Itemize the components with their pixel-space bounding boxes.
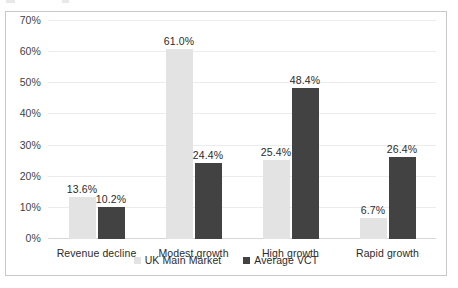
- bar-value-label: 24.4%: [193, 149, 223, 161]
- bar[interactable]: 25.4%: [263, 160, 290, 239]
- y-axis-tick-label: 30%: [20, 139, 41, 151]
- bar-value-label: 61.0%: [164, 35, 194, 47]
- top-crop-artifact-right: [62, 0, 69, 3]
- bar[interactable]: 24.4%: [195, 163, 222, 239]
- top-crop-artifact-left: [6, 0, 15, 3]
- bar[interactable]: 61.0%: [166, 49, 193, 239]
- bar[interactable]: 6.7%: [360, 218, 387, 239]
- bar-group: 25.4%48.4%High growth: [263, 21, 319, 239]
- legend-item[interactable]: Average VCT: [243, 254, 318, 266]
- bar-value-label: 6.7%: [361, 204, 385, 216]
- legend-swatch-icon: [243, 257, 250, 264]
- chart-container: 70%60%50%40%30%20%10%0%13.6%10.2%Revenue…: [5, 11, 447, 276]
- legend-label: Average VCT: [254, 254, 318, 266]
- legend-label: UK Main Market: [145, 254, 222, 266]
- y-axis-tick-label: 70%: [20, 14, 41, 26]
- plot-area: 70%60%50%40%30%20%10%0%13.6%10.2%Revenue…: [48, 21, 436, 239]
- bar-value-label: 25.4%: [261, 146, 291, 158]
- bar-group: 13.6%10.2%Revenue decline: [69, 21, 125, 239]
- chart-legend: UK Main MarketAverage VCT: [6, 254, 446, 266]
- bar[interactable]: 13.6%: [69, 197, 96, 239]
- bar[interactable]: 10.2%: [98, 207, 125, 239]
- legend-item[interactable]: UK Main Market: [134, 254, 222, 266]
- bar-group: 6.7%26.4%Rapid growth: [360, 21, 416, 239]
- bar-group: 61.0%24.4%Modest growth: [166, 21, 222, 239]
- y-axis-tick-label: 60%: [20, 45, 41, 57]
- bar-value-label: 48.4%: [290, 74, 320, 86]
- y-axis-tick-label: 0%: [26, 232, 41, 244]
- y-axis-tick-label: 40%: [20, 107, 41, 119]
- y-axis-tick-label: 50%: [20, 76, 41, 88]
- legend-swatch-icon: [134, 257, 141, 264]
- bar-value-label: 10.2%: [96, 193, 126, 205]
- bar[interactable]: 26.4%: [389, 157, 416, 239]
- bar-value-label: 13.6%: [67, 183, 97, 195]
- bar-value-label: 26.4%: [387, 143, 417, 155]
- y-axis-tick-label: 10%: [20, 201, 41, 213]
- bar[interactable]: 48.4%: [292, 88, 319, 239]
- y-axis-tick-label: 20%: [20, 170, 41, 182]
